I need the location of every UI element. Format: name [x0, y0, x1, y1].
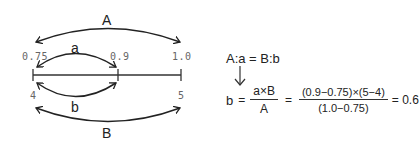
arc-B: [36, 108, 180, 122]
arc-label-b: b: [71, 100, 79, 114]
arc-label-A: A: [102, 13, 111, 27]
fraction2-numerator: (0.9−0.75)×(5−4): [299, 86, 388, 100]
arc-A: [36, 29, 180, 43]
arc-label-a: a: [71, 41, 79, 55]
down-arrow-icon: [235, 66, 245, 85]
formula-lhs: b: [226, 93, 233, 108]
formula-result: = 0.6: [388, 93, 419, 107]
tick-label-5: 5: [178, 91, 185, 101]
arc-b: [37, 83, 116, 97]
formula-eq2: =: [278, 93, 299, 107]
formula-eq1: =: [233, 93, 250, 107]
fraction1-denominator: A: [257, 100, 271, 116]
arc-label-B: B: [102, 126, 111, 140]
fraction2-denominator: (1.0−0.75): [315, 100, 371, 114]
proportion-text: A:a = B:b: [226, 51, 280, 66]
tick-label-4: 4: [30, 91, 37, 101]
tick-label-1.0: 1.0: [172, 52, 192, 62]
formula-row: b = a×B A = (0.9−0.75)×(5−4) (1.0−0.75) …: [226, 84, 419, 116]
fraction1-numerator: a×B: [250, 84, 278, 100]
number-line: [33, 69, 181, 81]
fraction-computation: (0.9−0.75)×(5−4) (1.0−0.75): [299, 86, 388, 114]
fraction-a-times-B-over-A: a×B A: [250, 84, 278, 116]
tick-label-0.9: 0.9: [110, 52, 130, 62]
tick-label-0.75: 0.75: [22, 52, 48, 62]
